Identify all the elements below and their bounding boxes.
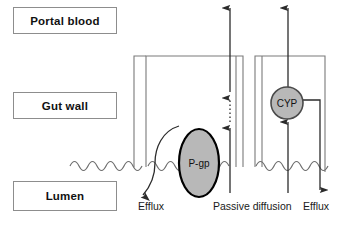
compartment-gut-wall: Gut wall <box>13 92 117 119</box>
flow-label-efflux-left: Efflux <box>138 200 164 212</box>
cyp-efflux-arrow <box>302 100 320 190</box>
pgp-transporter: P-gp <box>179 129 219 197</box>
compartment-lumen: Lumen <box>13 181 117 211</box>
pgp-efflux-arrow <box>143 126 179 195</box>
flow-label-passive-diffusion: Passive diffusion <box>213 200 292 212</box>
flow-label-efflux-right: Efflux <box>303 200 329 212</box>
cyp-label: CYP <box>277 98 298 109</box>
pgp-label: P-gp <box>188 158 210 169</box>
compartment-lumen-label: Lumen <box>46 190 85 202</box>
cyp-enzyme: CYP <box>271 87 303 119</box>
compartment-portal-blood-label: Portal blood <box>30 15 99 27</box>
diagram-canvas: P-gp CYP Portal blood Gut wall Lumen Eff… <box>0 0 348 225</box>
compartment-gut-wall-label: Gut wall <box>42 100 88 112</box>
cell-wall-far-left <box>134 56 146 167</box>
compartment-portal-blood: Portal blood <box>13 7 117 34</box>
